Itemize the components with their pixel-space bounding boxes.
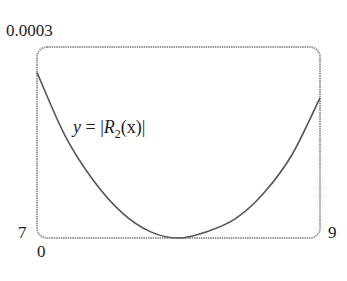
eq-rest: (x)|	[121, 117, 146, 137]
x-axis-min-label: 7	[18, 224, 27, 241]
y-axis-max-label: 0.0003	[6, 22, 53, 39]
plot-area	[0, 0, 347, 281]
eq-var-y: y	[73, 117, 81, 137]
curve-abs-r2	[37, 72, 320, 238]
eq-var-r: R	[104, 117, 115, 137]
x-axis-max-label: 9	[328, 224, 337, 241]
y-axis-min-label: 0	[37, 243, 46, 260]
curve-annotation: y = |R2(x)|	[73, 117, 145, 142]
eq-equals: = |	[81, 117, 104, 137]
plot-frame	[37, 47, 320, 238]
